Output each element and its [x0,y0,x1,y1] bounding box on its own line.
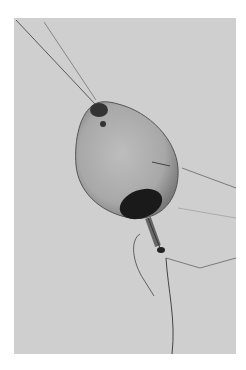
thread-lower-right [166,258,236,268]
thread-top-secondary [44,22,96,100]
thread-faint-right [178,208,236,218]
thread-bottom [166,258,173,354]
thread-top [16,20,95,104]
filament-left [134,234,154,296]
specimen-illustration [14,18,236,354]
thread-right [182,168,236,188]
specimen-photograph [14,18,236,354]
specimen-top-spot [100,121,106,127]
specimen-top-knob [90,103,108,117]
stalk-tip [157,247,165,253]
